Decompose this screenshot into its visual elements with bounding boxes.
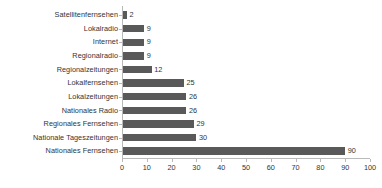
chart-row: Regionalradio9 — [0, 49, 382, 63]
x-axis-tick-label: 30 — [183, 163, 209, 172]
x-axis-tick — [122, 159, 123, 162]
x-axis-tick-label: 80 — [307, 163, 333, 172]
x-axis-tick-label: 0 — [109, 163, 135, 172]
x-axis-tick — [246, 159, 247, 162]
chart-row: Lokalradio9 — [0, 22, 382, 36]
x-axis-tick — [147, 159, 148, 162]
bar — [122, 134, 196, 141]
bar — [122, 107, 186, 114]
category-label: Nationales Radio — [0, 104, 118, 118]
chart-row: Lokalfernsehen25 — [0, 76, 382, 90]
bar-value-label: 2 — [129, 8, 133, 22]
y-axis-line — [122, 6, 123, 158]
bar-chart: Satellitenfernsehen2Lokalradio9Internet9… — [0, 0, 382, 188]
category-label: Lokalradio — [0, 22, 118, 36]
y-axis-tick — [119, 97, 122, 98]
bar — [122, 52, 144, 59]
category-label: Internet — [0, 35, 118, 49]
bar — [122, 66, 152, 73]
category-label: Regionalradio — [0, 49, 118, 63]
y-axis-tick — [119, 138, 122, 139]
y-axis-tick — [119, 42, 122, 43]
x-axis-tick-label: 60 — [258, 163, 284, 172]
category-label: Regionales Fernsehen — [0, 117, 118, 131]
chart-row: Regionalzeitungen12 — [0, 63, 382, 77]
x-axis-tick-label: 100 — [357, 163, 382, 172]
x-axis-tick — [172, 159, 173, 162]
bar-value-label: 9 — [147, 49, 151, 63]
x-axis-tick — [370, 159, 371, 162]
bar — [122, 147, 345, 154]
y-axis-tick — [119, 110, 122, 111]
category-label: Nationales Fernsehen — [0, 144, 118, 158]
x-axis-tick-label: 90 — [332, 163, 358, 172]
y-axis-tick — [119, 29, 122, 30]
y-axis-tick — [119, 124, 122, 125]
chart-row: Nationales Fernsehen90 — [0, 144, 382, 158]
y-axis-tick — [119, 83, 122, 84]
category-label: Nationale Tageszeitungen — [0, 131, 118, 145]
y-axis-tick — [119, 56, 122, 57]
chart-plot-area: Satellitenfernsehen2Lokalradio9Internet9… — [0, 0, 382, 160]
x-axis-tick — [196, 159, 197, 162]
x-axis-tick — [271, 159, 272, 162]
x-axis-tick — [221, 159, 222, 162]
bar-value-label: 26 — [189, 90, 197, 104]
category-label: Satellitenfernsehen — [0, 8, 118, 22]
bar — [122, 79, 184, 86]
bar — [122, 39, 144, 46]
bar-value-label: 12 — [154, 63, 162, 77]
bar-value-label: 90 — [348, 144, 356, 158]
x-axis-tick-label: 20 — [159, 163, 185, 172]
chart-row: Regionales Fernsehen29 — [0, 117, 382, 131]
bar — [122, 93, 186, 100]
bar-value-label: 29 — [196, 117, 204, 131]
x-axis-tick-label: 40 — [208, 163, 234, 172]
category-label: Lokalfernsehen — [0, 76, 118, 90]
bar — [122, 120, 194, 127]
chart-row: Nationale Tageszeitungen30 — [0, 131, 382, 145]
bar-value-label: 25 — [187, 76, 195, 90]
bar-value-label: 9 — [147, 35, 151, 49]
y-axis-tick — [119, 15, 122, 16]
chart-row: Nationales Radio26 — [0, 104, 382, 118]
bar-value-label: 30 — [199, 131, 207, 145]
bar — [122, 25, 144, 32]
x-axis-tick — [296, 159, 297, 162]
y-axis-tick — [119, 69, 122, 70]
category-label: Regionalzeitungen — [0, 63, 118, 77]
bar-value-label: 9 — [147, 22, 151, 36]
chart-row: Internet9 — [0, 35, 382, 49]
x-axis-tick-label: 50 — [233, 163, 259, 172]
y-axis-tick — [119, 151, 122, 152]
bar-value-label: 26 — [189, 104, 197, 118]
x-axis-tick-label: 10 — [134, 163, 160, 172]
chart-row: Satellitenfernsehen2 — [0, 8, 382, 22]
x-axis-tick — [345, 159, 346, 162]
x-axis-tick-label: 70 — [283, 163, 309, 172]
category-label: Lokalzeitungen — [0, 90, 118, 104]
x-axis-tick — [320, 159, 321, 162]
chart-row: Lokalzeitungen26 — [0, 90, 382, 104]
